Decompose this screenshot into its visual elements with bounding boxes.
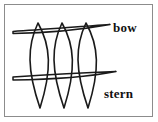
rib-1 xyxy=(30,23,48,108)
rib-3 xyxy=(78,23,96,108)
stringer-stern xyxy=(13,72,116,81)
diagram-canvas xyxy=(0,0,158,122)
label-bow: bow xyxy=(113,21,137,34)
label-stern: stern xyxy=(104,87,133,100)
ribs-group xyxy=(30,23,96,108)
rib-2 xyxy=(54,23,72,108)
stringers-group xyxy=(13,25,116,81)
boat-frame-diagram: bow stern xyxy=(0,0,158,122)
